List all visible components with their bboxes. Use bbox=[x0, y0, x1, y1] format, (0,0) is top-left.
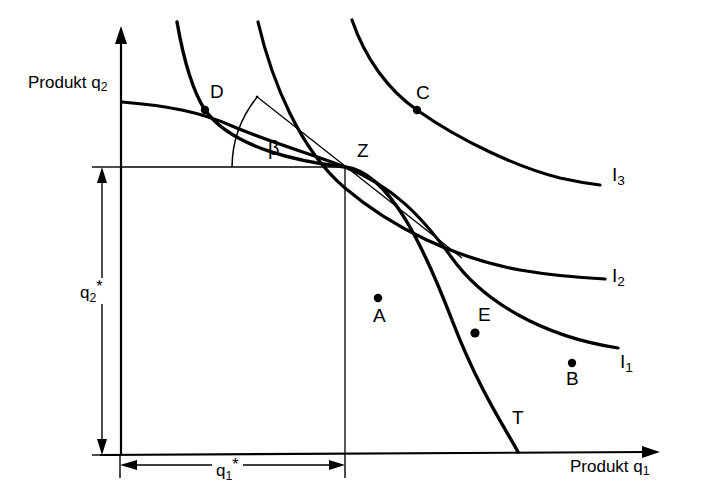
curve-label-i1: I1 bbox=[620, 352, 633, 375]
dimension-label-q1: q1* bbox=[212, 456, 243, 482]
curve-t-transformation bbox=[177, 22, 518, 452]
economics-diagram: Produkt q2 Produkt q1 q2* q1* β Z D C A … bbox=[0, 0, 723, 500]
point-label-b: B bbox=[566, 369, 579, 388]
curve-label-i3: I3 bbox=[612, 165, 625, 188]
curve-label-i2: I2 bbox=[612, 266, 625, 289]
point-label-e: E bbox=[478, 305, 491, 324]
y-axis-label: Produkt q2 bbox=[28, 74, 108, 94]
point-label-z: Z bbox=[357, 141, 369, 160]
point-label-a: A bbox=[373, 306, 386, 325]
point-marker-c bbox=[413, 106, 421, 114]
point-label-d: D bbox=[210, 82, 224, 101]
y-axis-arrowhead bbox=[115, 26, 127, 44]
curve-label-t: T bbox=[512, 408, 524, 427]
x-axis-label: Produkt q1 bbox=[570, 458, 650, 478]
curve-i1 bbox=[122, 102, 618, 348]
beta-angle-label: β bbox=[268, 138, 280, 158]
x-axis-arrowhead bbox=[642, 446, 660, 458]
diagram-canvas bbox=[0, 0, 723, 500]
point-marker-e bbox=[470, 328, 479, 337]
dimension-label-q2: q2* bbox=[76, 278, 107, 304]
point-marker-d bbox=[201, 106, 209, 114]
point-label-c: C bbox=[416, 83, 430, 102]
point-marker-a bbox=[374, 294, 382, 302]
curve-i2 bbox=[258, 22, 605, 279]
point-marker-b bbox=[568, 359, 576, 367]
dimension-q2 bbox=[92, 167, 121, 455]
curve-i3 bbox=[352, 20, 600, 185]
y-axis bbox=[115, 26, 127, 455]
guide-lines bbox=[121, 167, 345, 455]
